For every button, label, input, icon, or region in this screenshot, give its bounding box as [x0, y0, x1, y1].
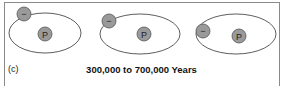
proton: P	[38, 27, 52, 41]
electron-symbol: −	[21, 9, 26, 19]
electron-symbol: −	[200, 26, 205, 36]
electron-symbol: −	[106, 16, 111, 26]
time-caption: 300,000 to 700,000 Years	[0, 64, 283, 75]
electron: −	[102, 14, 116, 28]
proton-symbol: P	[141, 30, 147, 40]
proton-symbol: P	[42, 30, 48, 40]
electron: −	[17, 7, 31, 21]
electron: −	[196, 24, 210, 38]
atom-3: − P	[196, 14, 276, 54]
atom-1: − P	[9, 7, 81, 53]
proton: P	[137, 27, 151, 41]
atom-2: − P	[100, 14, 180, 54]
proton: P	[232, 29, 246, 43]
proton-symbol: P	[236, 32, 242, 42]
